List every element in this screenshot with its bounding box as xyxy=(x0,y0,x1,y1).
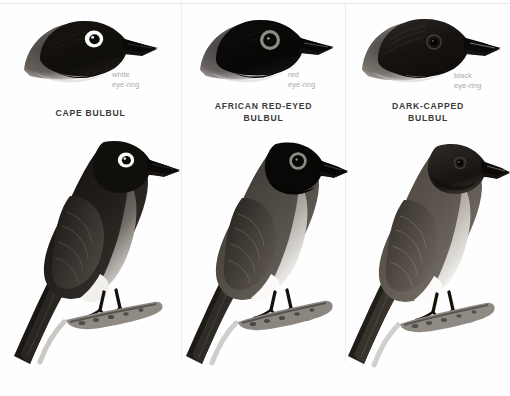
african-red-eyed-bulbul-species-name: AFRICAN RED-EYED BULBUL xyxy=(182,101,345,124)
cape-bulbul-eye-ring-label: white eye-ring xyxy=(112,70,140,89)
panel-dark-capped-bulbul: black eye-ring DARK-CAPPED BULBUL xyxy=(346,0,510,396)
cape-bulbul-body-illustration xyxy=(8,124,180,374)
bulbul-identification-plate: white eye-ring CAPE BULBUL xyxy=(0,0,510,396)
dark-capped-bulbul-head-illustration xyxy=(356,8,506,93)
panel-cape-bulbul: white eye-ring CAPE BULBUL xyxy=(0,0,181,396)
cape-bulbul-head-illustration xyxy=(16,8,166,93)
dark-capped-bulbul-eye-ring-label: black eye-ring xyxy=(454,71,482,90)
african-red-eyed-bulbul-body-illustration xyxy=(182,124,348,374)
dark-capped-bulbul-body-illustration xyxy=(346,124,510,374)
cape-bulbul-species-name: CAPE BULBUL xyxy=(0,108,181,120)
panel-african-red-eyed-bulbul: red eye-ring AFRICAN RED-EYED BULBUL xyxy=(182,0,345,396)
dark-capped-bulbul-species-name: DARK-CAPPED BULBUL xyxy=(346,101,510,124)
african-red-eyed-bulbul-head-illustration xyxy=(194,8,340,93)
african-red-eyed-bulbul-eye-ring-label: red eye-ring xyxy=(288,70,316,89)
